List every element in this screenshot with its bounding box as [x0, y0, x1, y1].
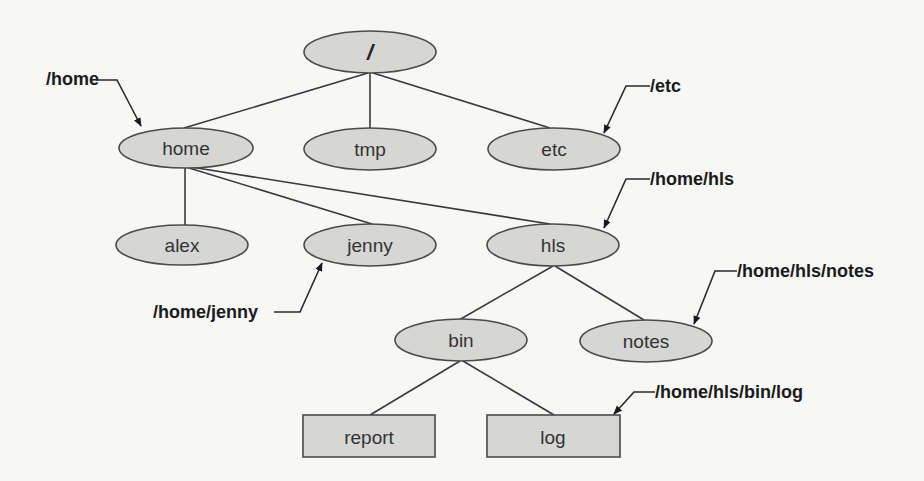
node-root: /: [304, 31, 436, 73]
node-hls: hls: [487, 224, 619, 266]
node-label: hls: [541, 235, 565, 256]
node-etc: etc: [488, 128, 620, 170]
arrow-icon: [614, 392, 655, 414]
node-alex: alex: [116, 225, 248, 265]
arrow-icon: [96, 80, 141, 126]
annotation-notes: /home/hls/notes: [694, 261, 874, 324]
path-label: /home/hls/bin/log: [655, 382, 803, 402]
annotation-home: /home: [46, 69, 141, 126]
edge-bin-report: [370, 361, 460, 415]
path-label: /etc: [650, 76, 681, 96]
node-label: report: [344, 427, 394, 448]
node-label: alex: [165, 235, 200, 256]
node-report: report: [303, 415, 435, 457]
node-label: jenny: [346, 235, 393, 256]
path-label: /home: [46, 69, 99, 89]
edge-root-etc: [373, 73, 550, 128]
edge-hls-notes: [555, 266, 644, 320]
node-notes: notes: [580, 320, 712, 362]
node-tmp: tmp: [304, 128, 436, 170]
path-label: /home/jenny: [153, 302, 258, 322]
edge-bin-log: [463, 361, 554, 415]
path-label: /home/hls: [650, 169, 734, 189]
node-label: bin: [448, 330, 473, 351]
edge-home-hls: [191, 167, 550, 224]
node-label: notes: [623, 331, 669, 352]
node-log: log: [487, 415, 620, 457]
node-jenny: jenny: [304, 224, 436, 266]
arrow-icon: [274, 263, 322, 312]
annotation-jenny: /home/jenny: [153, 263, 322, 322]
node-label: home: [162, 138, 210, 159]
annotation-hls: /home/hls: [604, 169, 734, 228]
node-home: home: [119, 128, 253, 168]
annotation-etc: /etc: [604, 76, 681, 133]
arrow-icon: [604, 86, 650, 133]
node-label: log: [540, 427, 565, 448]
node-label: etc: [541, 139, 566, 160]
edge-root-home: [184, 73, 368, 128]
annotation-log: /home/hls/bin/log: [614, 382, 803, 414]
edge-hls-bin: [459, 266, 553, 320]
arrow-icon: [604, 179, 650, 228]
directory-tree-diagram: / home tmp etc alex jenny hls bin notes …: [0, 0, 924, 481]
node-bin: bin: [395, 319, 527, 361]
node-label: tmp: [354, 139, 386, 160]
edge-home-jenny: [189, 168, 372, 224]
arrow-icon: [694, 271, 737, 324]
path-label: /home/hls/notes: [737, 261, 874, 281]
